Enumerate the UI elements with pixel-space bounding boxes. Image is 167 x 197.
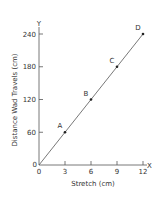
y-tick-label: 60 <box>27 129 36 137</box>
data-point-a <box>64 131 67 134</box>
data-point-d <box>142 33 145 36</box>
x-axis-letter: X <box>147 162 152 170</box>
origin-label: 0 <box>33 161 37 169</box>
y-tick-label: 180 <box>23 63 36 71</box>
point-label-c: C <box>110 57 115 65</box>
x-tick-label: 3 <box>63 168 67 176</box>
y-axis-letter: Y <box>36 20 42 28</box>
data-point-b <box>90 98 93 101</box>
x-tick-label: 9 <box>115 168 119 176</box>
y-tick-label: 120 <box>23 96 36 104</box>
labels: Stretch (cm) Distance Wad Travels (cm) X… <box>11 20 152 188</box>
line-chart: 03691260120180240 ABCD Stretch (cm) Dist… <box>0 0 167 197</box>
data-series: ABCD <box>39 24 144 165</box>
x-axis-title: Stretch (cm) <box>71 180 115 188</box>
y-axis-title: Distance Wad Travels (cm) <box>11 53 19 146</box>
point-label-a: A <box>58 122 63 130</box>
chart-canvas: 03691260120180240 ABCD Stretch (cm) Dist… <box>0 0 167 197</box>
point-label-b: B <box>84 90 89 98</box>
y-tick-label: 240 <box>23 31 36 39</box>
x-tick-label: 6 <box>89 168 94 176</box>
point-label-d: D <box>135 24 140 32</box>
x-tick-label: 0 <box>37 168 41 176</box>
data-point-c <box>116 65 119 68</box>
